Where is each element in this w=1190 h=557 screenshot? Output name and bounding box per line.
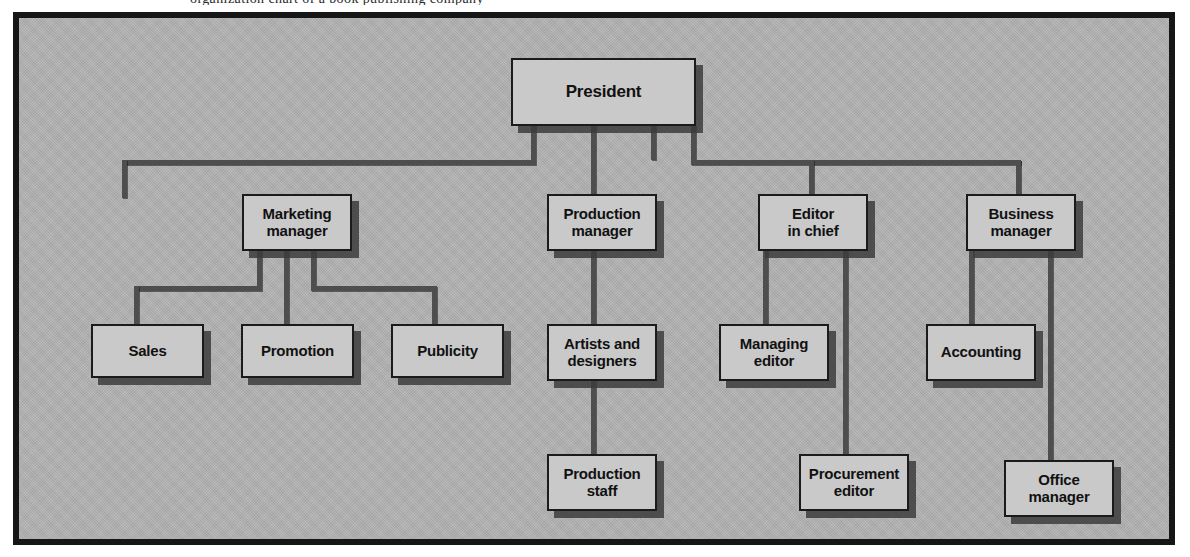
node-managing-editor[interactable]: Managing editor <box>719 324 829 381</box>
connector-marketing-to-sales <box>134 286 139 326</box>
connector-artists-to-production-staff <box>591 380 596 454</box>
node-label: Production manager <box>563 206 640 240</box>
node-label: Business manager <box>988 206 1053 240</box>
connector-marketing-bus-left <box>134 286 262 291</box>
node-label: Managing editor <box>740 336 808 370</box>
chart-canvas: President Marketing manager Production m… <box>19 18 1169 539</box>
node-procurement-editor[interactable]: Procurement editor <box>799 454 909 511</box>
node-office-manager[interactable]: Office manager <box>1004 460 1114 517</box>
connector-business-to-office-manager <box>1048 250 1053 460</box>
node-label: Production staff <box>563 466 640 500</box>
connector-editor-to-procurement <box>843 250 848 454</box>
node-production-manager[interactable]: Production manager <box>547 194 657 251</box>
connector-bus-to-marketing <box>122 160 127 198</box>
node-accounting[interactable]: Accounting <box>926 324 1036 381</box>
connector-bus-to-business <box>1016 160 1021 198</box>
chart-frame: President Marketing manager Production m… <box>13 12 1175 545</box>
node-promotion[interactable]: Promotion <box>241 324 354 378</box>
node-label: Sales <box>128 343 166 360</box>
connector-president-stub-2 <box>591 125 596 160</box>
org-chart-page: organization chart of a book publishing … <box>0 0 1190 557</box>
node-label: Promotion <box>261 343 334 360</box>
node-label: Marketing manager <box>262 206 331 240</box>
connector-production-to-artists <box>591 250 596 326</box>
node-label: Publicity <box>417 343 478 360</box>
connector-marketing-stub-1 <box>257 250 262 286</box>
connector-level1-bus-left <box>122 160 536 165</box>
connector-level1-bus-right <box>691 160 1021 165</box>
node-label: Office manager <box>1028 472 1089 506</box>
connector-marketing-to-promotion <box>284 286 289 326</box>
connector-president-stub-3 <box>651 125 656 160</box>
node-label: Procurement editor <box>809 466 899 500</box>
node-label: Accounting <box>941 344 1022 361</box>
connector-president-stub-1 <box>531 125 536 160</box>
connector-marketing-stub-3 <box>311 250 316 286</box>
connector-bus-to-production <box>591 160 596 198</box>
node-label: President <box>566 82 642 101</box>
node-marketing-manager[interactable]: Marketing manager <box>242 194 352 251</box>
node-label: Artists and designers <box>564 336 640 370</box>
connector-marketing-bus-right <box>311 286 436 291</box>
connector-marketing-to-publicity <box>432 286 437 326</box>
node-president[interactable]: President <box>511 58 696 126</box>
node-artists-and-designers[interactable]: Artists and designers <box>547 324 657 381</box>
top-caption-text: organization chart of a book publishing … <box>190 0 660 5</box>
connector-marketing-stub-2 <box>284 250 289 286</box>
connector-president-stub-4 <box>691 125 696 160</box>
connector-bus-to-editor <box>809 160 814 198</box>
node-editor-in-chief[interactable]: Editor in chief <box>758 194 868 251</box>
node-label: Editor in chief <box>788 206 839 240</box>
node-publicity[interactable]: Publicity <box>391 324 504 378</box>
connector-business-to-accounting <box>969 250 974 326</box>
node-production-staff[interactable]: Production staff <box>547 454 657 511</box>
connector-editor-to-managing-editor <box>763 250 768 326</box>
node-sales[interactable]: Sales <box>91 324 204 378</box>
node-business-manager[interactable]: Business manager <box>966 194 1076 251</box>
